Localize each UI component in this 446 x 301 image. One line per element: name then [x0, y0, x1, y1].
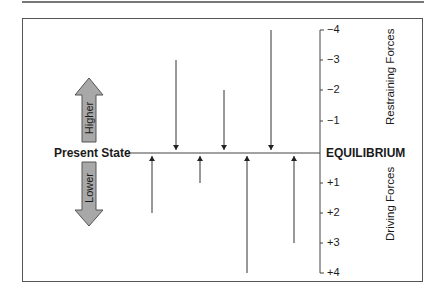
tick-label: +2 [327, 206, 340, 218]
tick-label: −1 [327, 114, 340, 126]
lower-label: Lower [83, 163, 95, 213]
tick-label: +1 [327, 176, 340, 188]
present-state-label: Present State [54, 146, 131, 160]
restraining-forces-label: Restraining Forces [384, 35, 396, 125]
tick-label: +3 [327, 236, 340, 248]
higher-label: Higher [83, 93, 95, 143]
tick-label: −3 [327, 53, 340, 65]
tick-label: −4 [327, 23, 340, 35]
tick-label: −2 [327, 83, 340, 95]
tick-label: +4 [327, 266, 340, 278]
driving-forces-label: Driving Forces [384, 181, 396, 241]
driving-force-arrows [152, 156, 294, 273]
equilibrium-label: EQUILIBRIUM [326, 146, 405, 160]
force-axis [320, 30, 324, 273]
restraining-force-arrows [176, 30, 271, 150]
